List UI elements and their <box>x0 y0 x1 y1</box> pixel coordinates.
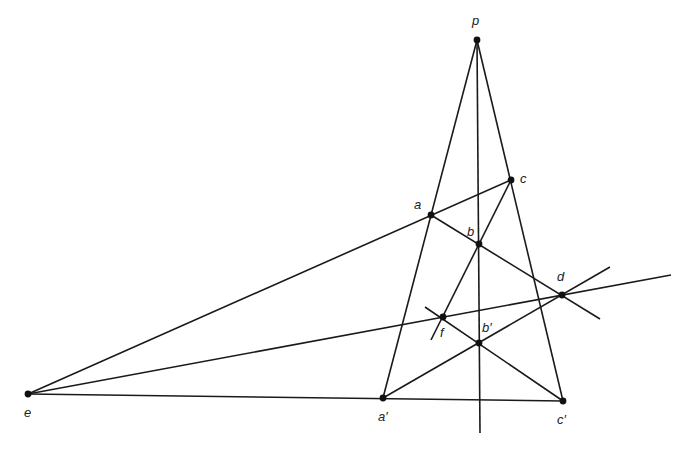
label-b: b <box>467 225 474 238</box>
point-b2 <box>476 340 483 347</box>
line-8 <box>383 267 610 398</box>
point-c <box>508 177 515 184</box>
line-3 <box>28 180 511 394</box>
label-a2: a′ <box>378 410 388 423</box>
line-5 <box>28 275 671 394</box>
label-f: f <box>440 326 444 339</box>
label-c: c <box>520 172 527 185</box>
label-a: a <box>414 198 421 211</box>
label-d: d <box>557 270 564 283</box>
label-c2: c′ <box>557 413 566 426</box>
label-p: p <box>472 14 479 27</box>
point-e <box>25 391 32 398</box>
point-f <box>440 314 447 321</box>
point-d <box>559 292 566 299</box>
diagram-lines <box>0 0 688 457</box>
diagram-canvas: pcabdfb′ea′c′ <box>0 0 688 457</box>
line-2 <box>477 40 480 433</box>
line-0 <box>383 40 477 398</box>
point-a2 <box>380 395 387 402</box>
point-c2 <box>560 398 567 405</box>
point-p <box>474 37 481 44</box>
line-4 <box>28 394 563 401</box>
label-e: e <box>24 406 31 419</box>
label-b2: b′ <box>482 321 492 334</box>
point-b <box>476 241 483 248</box>
point-a <box>428 212 435 219</box>
line-9 <box>425 307 563 401</box>
